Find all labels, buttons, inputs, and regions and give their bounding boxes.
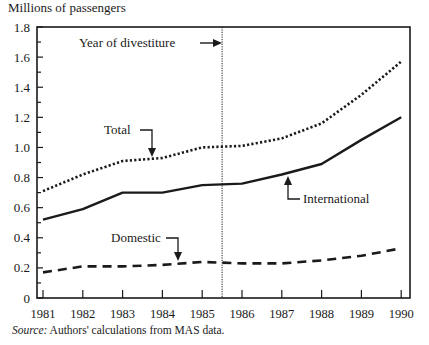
domestic-arrow-head-icon [174, 252, 182, 261]
domestic-label: Domestic [111, 230, 161, 245]
divestiture-label: Year of divestiture [79, 35, 175, 50]
divestiture-arrow-head-icon [213, 39, 222, 47]
x-tick-label: 1983 [110, 307, 135, 321]
x-tick-label: 1986 [230, 307, 255, 321]
total-arrow-shaft [140, 130, 152, 150]
x-tick-label: 1985 [190, 307, 215, 321]
source-note: Source: Authors' calculations from MAS d… [12, 324, 224, 336]
plot-border [37, 27, 410, 298]
x-tick-label: 1990 [389, 307, 414, 321]
x-tick-label: 1981 [31, 307, 56, 321]
y-tick-label: 1.6 [14, 50, 31, 65]
y-tick-label: 1.8 [14, 20, 30, 35]
x-tick-label: 1982 [70, 307, 95, 321]
y-tick-label: 1.4 [14, 80, 31, 95]
international-arrow-shaft [288, 183, 300, 199]
total-arrow-head-icon [148, 148, 156, 157]
y-tick-label: 1.0 [14, 140, 30, 155]
total-label: Total [104, 122, 131, 137]
y-tick-label: 0.2 [14, 260, 30, 275]
x-tick-label: 1984 [150, 307, 176, 321]
x-tick-label: 1988 [309, 307, 334, 321]
source-text: Authors' calculations from MAS data. [47, 324, 224, 336]
x-tick-label: 1987 [269, 307, 294, 321]
y-tick-label: 0.8 [14, 170, 30, 185]
x-tick-label: 1989 [349, 307, 374, 321]
y-tick-label: 0.4 [14, 230, 31, 245]
y-tick-label: 1.2 [14, 110, 30, 125]
y-tick-label: 0.6 [14, 200, 31, 215]
domestic-arrow-shaft [166, 238, 178, 253]
plot-frame [37, 27, 410, 298]
y-tick-label: 0 [24, 291, 31, 306]
x-axis-ticks: 1981198219831984198519861987198819891990 [31, 290, 414, 321]
source-label: Source: [12, 324, 47, 336]
line-chart: 00.20.40.60.81.01.21.41.61.8 19811982198… [0, 0, 429, 345]
international-arrow-head-icon [284, 176, 292, 185]
international-label: International [303, 191, 370, 206]
y-axis-ticks: 00.20.40.60.81.01.21.41.61.8 [14, 20, 43, 306]
